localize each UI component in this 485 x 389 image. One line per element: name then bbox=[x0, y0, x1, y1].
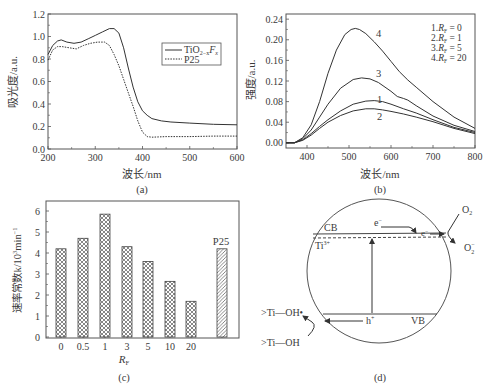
o2-reduction-arrow bbox=[448, 214, 459, 243]
y-tick-label: 0 bbox=[35, 332, 40, 343]
panel-a-y-tick-labels: 0.00.20.40.60.81.01.2 bbox=[33, 9, 46, 155]
legend-p25: P25 bbox=[184, 54, 200, 65]
x-tick-label: 600 bbox=[384, 151, 399, 162]
bar-3 bbox=[122, 247, 132, 337]
y-tick-label: 2 bbox=[35, 290, 40, 301]
electron-label-2: e− bbox=[421, 228, 428, 238]
svg-text:2: 2 bbox=[377, 111, 382, 122]
ti-oh-label: >Ti—OH bbox=[261, 337, 300, 348]
ti-oh-radical-label: >Ti—OH• bbox=[261, 307, 303, 318]
panel-a-caption: (a) bbox=[136, 184, 148, 196]
panel-a-x-axis-label: 波长/nm bbox=[122, 168, 162, 180]
electron-label: e− bbox=[374, 217, 382, 228]
svg-text:1: 1 bbox=[377, 94, 382, 105]
svg-text:3: 3 bbox=[376, 68, 381, 79]
y-tick-label: 0.00 bbox=[266, 137, 284, 148]
y-tick-label: 1.0 bbox=[33, 31, 46, 42]
panel-b-y-tick-labels: 0.000.040.080.120.160.200.24 bbox=[266, 14, 284, 149]
cb-label: CB bbox=[324, 222, 338, 233]
legend-entry: 4.RF = 20 bbox=[431, 53, 467, 64]
y-tick-label: 0.24 bbox=[266, 14, 284, 25]
panel-d-band-diagram: CB VB Ti3+ e− e− O2 O2− h+ >Ti—OH• >Ti—O… bbox=[261, 199, 475, 384]
bar-20 bbox=[186, 301, 196, 337]
x-tick-label: 400 bbox=[135, 152, 150, 163]
y-tick-label: 0.08 bbox=[266, 96, 284, 107]
panel-d-caption: (d) bbox=[374, 372, 387, 384]
ti3-label: Ti3+ bbox=[315, 240, 331, 251]
panel-b-y-axis-label: 强度/a.u. bbox=[244, 59, 257, 100]
panel-a-legend: TiO2−xFx P25 bbox=[162, 43, 221, 65]
x-tick-label: 400 bbox=[300, 151, 315, 162]
y-tick-label: 0.20 bbox=[266, 34, 284, 45]
panel-c-x-tick-labels: 00.51351020 bbox=[59, 341, 197, 352]
panel-b-intensity-chart: 0.000.040.080.120.160.200.24 40050060070… bbox=[244, 14, 483, 196]
y-tick-label: 3 bbox=[35, 269, 40, 280]
y-tick-label: 0.2 bbox=[33, 121, 46, 132]
panel-a-ticks bbox=[48, 14, 237, 149]
x-tick-label: 3 bbox=[125, 341, 130, 352]
x-tick-label: 600 bbox=[230, 152, 245, 163]
electron-transfer-arrow bbox=[381, 227, 416, 233]
panel-a-x-tick-labels: 200300400500600 bbox=[41, 152, 245, 163]
x-tick-label: 10 bbox=[165, 341, 175, 352]
panel-c-rate-constant-bar-chart: 0123456 00.51351020 P25 速率常数k/103min−1 R… bbox=[11, 201, 239, 384]
x-tick-label: 500 bbox=[342, 151, 357, 162]
x-tick-label: 700 bbox=[426, 151, 441, 162]
x-tick-label: 20 bbox=[186, 341, 196, 352]
o2-label: O2 bbox=[462, 204, 472, 216]
panel-a-y-axis-label: 吸光度/a.u. bbox=[6, 56, 19, 108]
x-tick-label: 800 bbox=[468, 151, 483, 162]
p25-bar-label: P25 bbox=[213, 236, 229, 247]
panel-b-x-tick-labels: 400500600700800 bbox=[300, 151, 483, 162]
ti3-level-line bbox=[313, 237, 446, 238]
x-tick-label: 0.5 bbox=[77, 341, 90, 352]
panel-a-absorbance-chart: 0.00.20.40.60.81.01.2 200300400500600 Ti… bbox=[6, 9, 245, 197]
bar-0 bbox=[56, 249, 66, 337]
y-tick-label: 0.16 bbox=[266, 55, 284, 66]
hole-label: h+ bbox=[366, 315, 375, 326]
oxidation-arrow bbox=[303, 316, 314, 336]
y-tick-label: 6 bbox=[35, 206, 40, 217]
x-tick-label: 300 bbox=[88, 152, 103, 163]
bar-1 bbox=[100, 214, 110, 337]
panel-c-bars bbox=[56, 214, 227, 337]
panel-b-caption: (b) bbox=[374, 184, 387, 196]
panel-c-frame bbox=[46, 201, 239, 338]
y-tick-label: 5 bbox=[35, 227, 40, 238]
panel-c-x-axis-label: RF bbox=[118, 353, 130, 366]
y-tick-label: 1.2 bbox=[33, 9, 46, 20]
bar-p25 bbox=[217, 249, 227, 337]
panel-c-y-tick-labels: 0123456 bbox=[35, 206, 40, 343]
panel-c-caption: (c) bbox=[118, 372, 130, 384]
y-tick-label: 1 bbox=[35, 311, 40, 322]
bar-10 bbox=[165, 281, 175, 337]
vb-label: VB bbox=[411, 315, 425, 326]
svg-text:4: 4 bbox=[376, 28, 382, 39]
y-tick-label: 0.8 bbox=[33, 54, 46, 65]
y-tick-label: 0.4 bbox=[33, 99, 46, 110]
panel-c-y-axis-label: 速率常数k/103min−1 bbox=[11, 227, 23, 312]
x-tick-label: 5 bbox=[146, 341, 151, 352]
panel-b-x-axis-label: 波长/nm bbox=[360, 168, 400, 180]
x-tick-label: 500 bbox=[182, 152, 197, 163]
y-tick-label: 4 bbox=[35, 248, 40, 259]
panel-a-frame bbox=[48, 14, 237, 149]
y-tick-label: 0.12 bbox=[266, 76, 284, 87]
bar-5 bbox=[143, 261, 153, 337]
panel-b-legend: 1.RF = 02.RF = 13.RF = 54.RF = 20 bbox=[431, 23, 467, 64]
panel-b-curve-labels: 4 3 1 2 bbox=[376, 28, 382, 122]
x-tick-label: 0 bbox=[59, 341, 64, 352]
figure: 0.00.20.40.60.81.01.2 200300400500600 Ti… bbox=[0, 0, 485, 389]
x-tick-label: 200 bbox=[41, 152, 56, 163]
x-tick-label: 1 bbox=[103, 341, 108, 352]
y-tick-label: 0.6 bbox=[33, 76, 46, 87]
o2-superoxide-label: O2− bbox=[464, 241, 475, 255]
y-tick-label: 0.04 bbox=[266, 117, 284, 128]
bar-0.5 bbox=[78, 238, 88, 337]
